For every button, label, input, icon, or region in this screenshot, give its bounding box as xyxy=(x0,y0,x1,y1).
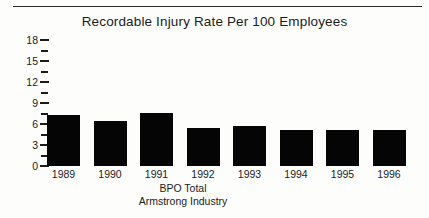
y-axis-tick-major xyxy=(40,102,49,104)
y-axis-tick-label: 12 xyxy=(12,77,38,88)
bar-1992 xyxy=(187,128,220,166)
y-axis-tick-label: 0 xyxy=(12,161,38,172)
y-axis-tick-major xyxy=(40,81,49,83)
x-axis-tick-label: 1994 xyxy=(275,169,318,180)
x-axis-tick-label: 1995 xyxy=(321,169,364,180)
bar-1991 xyxy=(140,113,173,166)
x-axis-tick-label: 1996 xyxy=(368,169,411,180)
x-axis-tick-label: 1992 xyxy=(182,169,225,180)
x-axis-tick-label: 1991 xyxy=(135,169,178,180)
y-axis-tick-major xyxy=(40,60,49,62)
chart-figure: Recordable Injury Rate Per 100 Employees… xyxy=(0,0,429,218)
x-axis-tick-label: 1990 xyxy=(89,169,132,180)
y-axis-tick-label: 15 xyxy=(12,56,38,67)
x-axis-tick-label: 1993 xyxy=(228,169,271,180)
y-axis-tick-label: 3 xyxy=(12,140,38,151)
bar-1996 xyxy=(373,130,406,166)
y-axis-tick-label: 9 xyxy=(12,98,38,109)
bar-1993 xyxy=(233,126,266,166)
chart-caption: BPO Total Armstrong Industry xyxy=(58,182,308,208)
bar-1995 xyxy=(326,130,359,166)
bar-1994 xyxy=(280,130,313,166)
caption-line-1: BPO Total xyxy=(58,182,308,195)
bar-1989 xyxy=(47,115,80,166)
bar-1990 xyxy=(94,121,127,166)
x-axis-tick-label: 1989 xyxy=(42,169,85,180)
y-axis-tick-major xyxy=(40,39,49,41)
y-axis-tick-label: 6 xyxy=(12,119,38,130)
y-axis-tick-minor xyxy=(41,92,48,94)
y-axis-tick-minor xyxy=(41,50,48,52)
y-axis-tick-label: 18 xyxy=(12,35,38,46)
caption-line-2: Armstrong Industry xyxy=(58,195,308,208)
y-axis-tick-minor xyxy=(41,71,48,73)
